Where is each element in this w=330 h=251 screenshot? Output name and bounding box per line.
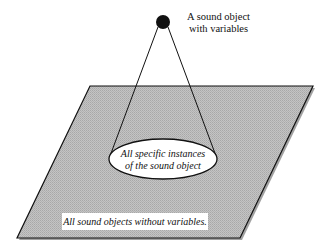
sound-object-label: A sound object with variables xyxy=(187,11,250,35)
sound-object-dot xyxy=(156,15,170,29)
instances-label-line2: of the sound object xyxy=(110,160,216,172)
instances-label-line1: All specific instances xyxy=(110,148,216,160)
sound-object-label-line2: with variables xyxy=(187,23,250,35)
plane-label: All sound objects without variables. xyxy=(62,213,208,230)
sound-object-label-line1: A sound object xyxy=(187,11,250,23)
instances-label: All specific instances of the sound obje… xyxy=(110,148,216,172)
